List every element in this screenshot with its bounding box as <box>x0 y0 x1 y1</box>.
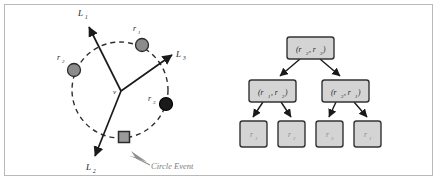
figure-canvas: v L 1 L 3 L 2 r 1 r 2 <box>0 0 437 180</box>
site-r1 <box>136 39 149 52</box>
svg-text:, r: , r <box>271 88 278 97</box>
svg-text:, r: , r <box>309 45 316 54</box>
site-r3 <box>160 98 173 111</box>
svg-text:r: r <box>250 130 253 139</box>
svg-text:(r: (r <box>331 88 336 97</box>
svg-text:L: L <box>175 49 181 59</box>
tree-node-root[interactable]: (r 2 , r 3 ) <box>287 37 334 59</box>
tree-leaf-2-box <box>278 121 305 147</box>
svg-text:(r: (r <box>296 45 301 54</box>
svg-text:1: 1 <box>85 14 88 20</box>
svg-text:, r: , r <box>344 88 351 97</box>
tree-leaf-4[interactable]: r 1 <box>354 121 381 147</box>
figure-container: v L 1 L 3 L 2 r 1 r 2 <box>0 0 437 180</box>
svg-text:r: r <box>326 130 329 139</box>
svg-text:r: r <box>288 130 291 139</box>
site-r2 <box>68 64 81 77</box>
tree-leaf-3[interactable]: r 3 <box>316 121 343 147</box>
circle-event-caption: Circle Event <box>151 161 194 171</box>
tree-leaf-3-box <box>316 121 343 147</box>
tree-leaf-2[interactable]: r 2 <box>278 121 305 147</box>
svg-text:): ) <box>322 45 326 54</box>
svg-text:L: L <box>85 162 91 172</box>
svg-text:L: L <box>77 8 83 18</box>
svg-text:3: 3 <box>182 55 186 61</box>
svg-text:): ) <box>284 88 288 97</box>
svg-text:r: r <box>364 130 367 139</box>
svg-text:(r: (r <box>258 88 263 97</box>
tree-leaf-4-box <box>354 121 381 147</box>
svg-text:): ) <box>357 88 361 97</box>
tree-leaf-1-box <box>240 121 267 147</box>
tree-node-internal-right[interactable]: (r 3 , r 1 ) <box>322 80 369 102</box>
svg-text:2: 2 <box>93 168 96 174</box>
circle-event-marker <box>119 132 130 143</box>
svg-text:1: 1 <box>255 136 257 141</box>
tree-node-internal-left[interactable]: (r 1 , r 2 ) <box>249 80 296 102</box>
svg-text:1: 1 <box>369 136 371 141</box>
svg-text:1: 1 <box>138 30 141 35</box>
tree-leaf-1[interactable]: r 1 <box>240 121 267 147</box>
